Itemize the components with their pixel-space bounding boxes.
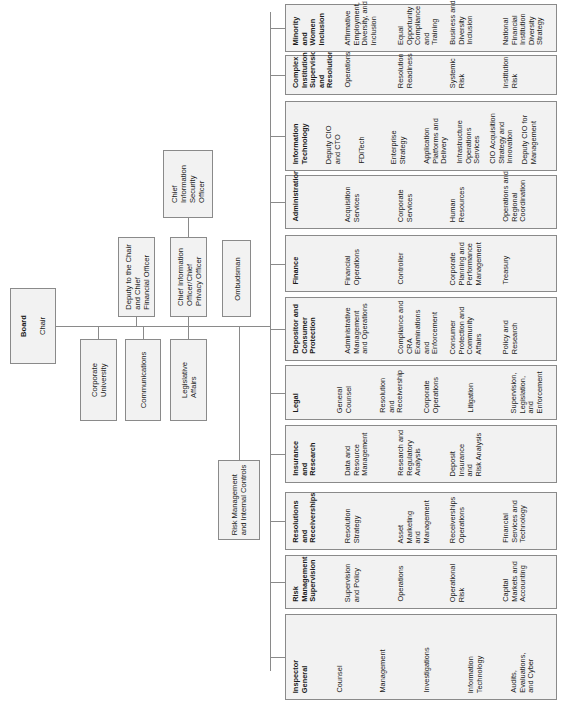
ciso-box: Chief Information Security Officer — [163, 150, 213, 218]
division-mwi: Minority and Women InclusionAffirmative … — [285, 4, 557, 52]
division-rms: Risk Management SupervisionSupervision a… — [285, 555, 557, 609]
division-title: Insurance and Research — [292, 441, 318, 476]
communications-box: Communications — [125, 339, 161, 421]
resolutions-connector — [270, 521, 285, 522]
unit-label: Capital Markets and Accounting — [502, 561, 528, 602]
insurance-connector — [270, 454, 285, 455]
risk-internal-connector — [239, 326, 240, 460]
finance-connector — [270, 264, 285, 265]
unit-label: Resolution and Receivership — [379, 370, 405, 413]
division-dcp: Depositor and Consumer ProtectionAdminis… — [285, 297, 557, 361]
unit-label: Deputy CIO for Management — [521, 115, 538, 164]
ombudsman-box: Ombudsman — [222, 240, 251, 317]
unit-label: Financial Services and Technology — [502, 500, 528, 543]
unit-label: Consumer Protection and Community Affair… — [449, 306, 483, 354]
division-title: Inspector General — [292, 660, 309, 693]
unit-label: FDiTech — [358, 137, 367, 164]
unit-label: Compliance and CRA Examinations and Enfo… — [397, 301, 440, 354]
communications-label: Communications — [139, 352, 148, 409]
communications-connector — [143, 326, 144, 339]
division-title: Resolutions and Receiverships — [292, 493, 318, 543]
legislative-affairs-label: Legislative Affairs — [180, 362, 198, 398]
unit-label: Policy and Research — [502, 320, 519, 354]
corp-univ-connector — [98, 326, 99, 339]
cio-cpo-label: Chief Information Officer/Chief Privacy … — [175, 248, 202, 306]
unit-label: Audits, Evaluations, and Cyber — [510, 653, 536, 693]
division-resolutions: Resolutions and ReceivershipsResolution … — [285, 492, 557, 550]
division-cisr: Complex Institution Supervision and Reso… — [285, 55, 557, 95]
division-title: Finance — [292, 257, 301, 285]
unit-label: Acquisition Services — [344, 186, 361, 222]
cio-cpo-box: Chief Information Officer/Chief Privacy … — [170, 237, 207, 317]
board-chair-box: Board Chair — [10, 288, 56, 364]
division-it: Information TechnologyDeputy CIO and CTO… — [285, 101, 557, 171]
division-trunk-connector — [270, 12, 271, 671]
unit-label: Corporate Planning and Performance Manag… — [449, 242, 483, 285]
unit-label: Resolution Readiness — [397, 53, 414, 88]
deputy-connector — [136, 317, 137, 327]
chair-label: Chair — [38, 288, 47, 364]
ciso-label: Chief Information Security Officer — [170, 165, 206, 203]
mwi-connector — [270, 28, 285, 29]
division-title: Risk Management Supervision — [292, 557, 318, 602]
division-insurance: Insurance and ResearchData and Resource … — [285, 425, 557, 483]
unit-label: Asset Marketing and Management — [397, 500, 431, 543]
unit-label: Information Technology — [467, 656, 484, 693]
legislative-affairs-box: Legislative Affairs — [170, 339, 207, 421]
unit-label: Deputy CIO and CTO — [325, 125, 342, 164]
unit-label: Enterprise Strategy — [390, 130, 407, 164]
unit-label: Business and Diversity Inclusion — [449, 1, 475, 45]
risk-internal-controls-label: Risk Management and Internal Controls — [230, 465, 248, 536]
unit-label: Infrastructure Operations Services — [456, 120, 482, 164]
division-inspector-general: Inspector GeneralCounselManagementInvest… — [285, 614, 557, 700]
corporate-university-label: Corporate University — [90, 363, 108, 397]
deputy-cfo-label: Deputy to the Chair and Chief Financial … — [123, 244, 150, 309]
dcp-connector — [270, 329, 285, 330]
unit-label: National Financial Institution Diversity… — [502, 13, 545, 45]
inspector-general-connector — [270, 657, 285, 658]
division-finance: FinanceFinancial OperationsControllerCor… — [285, 235, 557, 292]
unit-label: Investigations — [423, 648, 432, 693]
unit-label: Management — [379, 650, 388, 693]
unit-label: Treasury — [502, 256, 511, 285]
cisr-connector — [270, 75, 285, 76]
unit-label: Operations — [344, 52, 353, 88]
unit-label: Administrative Management and Operations — [344, 303, 370, 354]
unit-label: CIO Acquisition Strategy and Innovation — [489, 113, 515, 164]
unit-label: Counsel — [336, 666, 345, 693]
division-title: Administration — [292, 170, 301, 222]
unit-label: Institution Risk — [502, 56, 519, 88]
unit-label: Operations and Regional Coordination — [502, 171, 528, 222]
unit-label: Corporate Operations — [423, 377, 440, 413]
unit-label: Litigation — [467, 383, 476, 413]
corporate-university-box: Corporate University — [80, 339, 117, 421]
division-title: Information Technology — [292, 123, 309, 164]
it-connector — [270, 136, 285, 137]
unit-label: Supervision and Policy — [344, 563, 361, 602]
division-legal: LegalGeneral CounselResolution and Recei… — [285, 365, 557, 420]
unit-label: Resolution Strategy — [344, 508, 361, 543]
administration-connector — [270, 202, 285, 203]
division-administration: AdministrationAcquisition ServicesCorpor… — [285, 175, 557, 229]
unit-label: Corporate Services — [397, 189, 414, 222]
rms-connector — [270, 582, 285, 583]
unit-label: Application Platforms and Delivery — [423, 118, 449, 164]
unit-label: Research and Regulatory Analysis — [397, 430, 423, 476]
unit-label: Operations — [397, 566, 406, 602]
ciso-connector — [188, 218, 189, 237]
unit-label: Human Resources — [449, 187, 466, 222]
division-title: Depositor and Consumer Protection — [292, 304, 318, 354]
division-title: Minority and Women Inclusion — [292, 13, 326, 45]
unit-label: General Counsel — [336, 386, 353, 413]
deputy-cfo-box: Deputy to the Chair and Chief Financial … — [118, 237, 155, 317]
unit-label: Equal Opportunity Compliance and Trainin… — [397, 6, 440, 45]
risk-internal-controls-box: Risk Management and Internal Controls — [218, 460, 260, 540]
unit-label: Deposit Insurance and Risk Analysis — [449, 432, 483, 476]
unit-label: Systemic Risk — [449, 58, 466, 88]
unit-label: Data and Resource Management — [344, 433, 370, 476]
unit-label: Receiverships Operations — [449, 497, 466, 543]
division-title: Legal — [292, 394, 301, 413]
legal-connector — [270, 393, 285, 394]
unit-label: Controller — [397, 253, 406, 285]
board-label: Board — [19, 288, 28, 364]
